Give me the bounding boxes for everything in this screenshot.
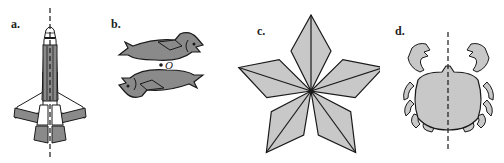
shuttle-figure — [0, 0, 100, 163]
center-point-o — [159, 63, 163, 67]
crab-figure — [380, 0, 504, 163]
star-figure — [220, 0, 380, 163]
panel-c-star: c. — [220, 0, 380, 163]
panel-d-crab: d. — [380, 0, 504, 163]
center-label-o: O — [165, 59, 173, 71]
panel-b-fish: b. O — [100, 0, 220, 163]
fish-figure: O — [100, 0, 220, 163]
panel-a-shuttle: a. — [0, 0, 100, 163]
fish-bottom — [119, 70, 203, 98]
fish-top — [119, 33, 203, 61]
